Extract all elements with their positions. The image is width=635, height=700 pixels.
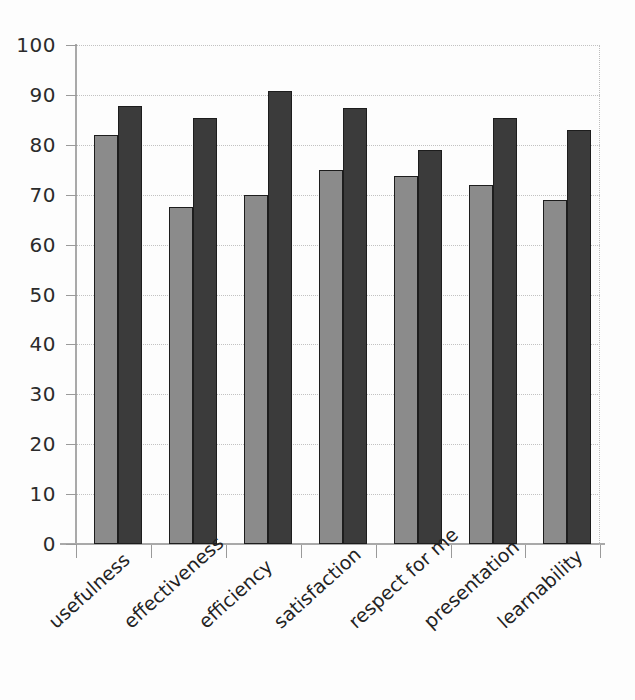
bar-learnability-series-b <box>567 130 591 544</box>
y-axis-tick <box>66 344 77 345</box>
y-axis-tick-label: 50 <box>0 283 56 307</box>
bar-respect-for-me-series-a <box>394 176 418 544</box>
bar-usefulness-series-a <box>94 135 118 544</box>
x-axis-tick <box>525 545 526 558</box>
y-axis-tick-label: 100 <box>0 33 56 57</box>
y-axis-tick-label: 70 <box>0 183 56 207</box>
bar-satisfaction-series-a <box>319 170 343 544</box>
bar-chart: 1009080706050403020100 usefulnesseffecti… <box>0 0 635 700</box>
y-axis-tick-label: 10 <box>0 482 56 506</box>
gridline <box>76 45 600 46</box>
x-axis-tick <box>151 545 152 558</box>
y-axis-tick <box>66 95 77 96</box>
x-axis-tick <box>76 545 77 558</box>
bar-efficiency-series-b <box>268 91 292 544</box>
x-axis-tick <box>301 545 302 558</box>
bar-efficiency-series-a <box>244 195 268 544</box>
y-axis-tick-label: 90 <box>0 83 56 107</box>
x-axis-tick <box>376 545 377 558</box>
y-axis-tick-label: 30 <box>0 382 56 406</box>
bar-satisfaction-series-b <box>343 108 367 544</box>
y-axis-tick <box>66 295 77 296</box>
y-axis-tick <box>66 245 77 246</box>
gridline <box>76 95 600 96</box>
category-label-usefulness: usefulness <box>44 548 134 632</box>
bar-presentation-series-b <box>493 118 517 544</box>
y-axis-tick <box>66 145 77 146</box>
bar-effectiveness-series-b <box>193 118 217 544</box>
y-axis-tick <box>66 45 77 46</box>
bar-respect-for-me-series-b <box>418 150 442 544</box>
bar-learnability-series-a <box>543 200 567 544</box>
y-axis-tick-label: 0 <box>0 532 56 556</box>
y-axis-tick <box>66 394 77 395</box>
y-axis-tick-label: 20 <box>0 432 56 456</box>
y-axis-tick <box>66 444 77 445</box>
y-axis-tick <box>66 195 77 196</box>
y-axis-tick-label: 40 <box>0 332 56 356</box>
x-axis-tick <box>600 545 601 558</box>
y-axis-tick-label: 60 <box>0 233 56 257</box>
bar-presentation-series-a <box>469 185 493 544</box>
y-axis-tick-label: 80 <box>0 133 56 157</box>
gridline <box>76 145 600 146</box>
bar-usefulness-series-b <box>118 106 142 544</box>
bar-effectiveness-series-a <box>169 207 193 544</box>
y-axis-tick <box>66 494 77 495</box>
